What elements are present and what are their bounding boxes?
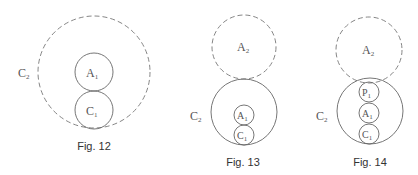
caption-fig-13: Fig. 13 bbox=[226, 156, 260, 168]
figures-diagram: C2 A1 C1 Fig. 12 A2 C2 A1 C1 Fig. 13 A2 … bbox=[0, 0, 418, 175]
label-a2: A2 bbox=[362, 43, 375, 58]
figure-13: A2 C2 A1 C1 Fig. 13 bbox=[190, 15, 277, 168]
caption-fig-12: Fig. 12 bbox=[77, 140, 111, 152]
label-c1: C1 bbox=[237, 130, 248, 143]
label-c2: C2 bbox=[18, 66, 30, 81]
figure-12: C2 A1 C1 Fig. 12 bbox=[18, 16, 150, 152]
label-c2: C2 bbox=[316, 109, 328, 124]
label-a2: A2 bbox=[237, 40, 250, 55]
label-c1: C1 bbox=[86, 104, 98, 119]
label-a1: A1 bbox=[237, 110, 248, 123]
label-c2: C2 bbox=[190, 109, 202, 124]
label-a1: A1 bbox=[362, 108, 373, 121]
label-a1: A1 bbox=[86, 66, 99, 81]
caption-fig-14: Fig. 14 bbox=[353, 156, 387, 168]
figure-14: A2 C2 P1 A1 C1 Fig. 14 bbox=[316, 17, 403, 168]
label-c1: C1 bbox=[362, 129, 373, 142]
label-p1: P1 bbox=[362, 87, 372, 100]
